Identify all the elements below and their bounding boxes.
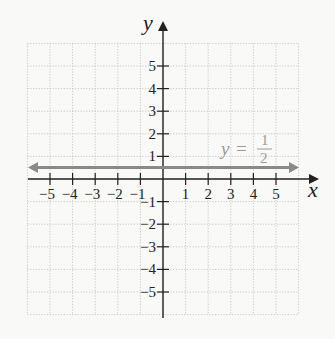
y-tick-label: 1 xyxy=(149,148,157,164)
x-tick-label: 4 xyxy=(250,186,258,202)
y-tick-label: 4 xyxy=(149,81,157,97)
y-tick-label: −5 xyxy=(140,284,156,300)
y-tick-label: −4 xyxy=(140,261,156,277)
coordinate-plane: −5−4−3−2−11234554321−1−2−3−4−5 y = 1 2 x… xyxy=(0,0,335,339)
y-axis-arrow-icon xyxy=(158,21,168,31)
line-left-arrow-icon xyxy=(28,162,38,173)
equation-label: y = 1 2 xyxy=(219,132,272,166)
x-tick-label: 1 xyxy=(182,186,190,202)
x-tick-label: −4 xyxy=(62,186,78,202)
y-tick-label: 5 xyxy=(149,58,157,74)
x-tick-label: 5 xyxy=(272,186,280,202)
y-tick-label: 2 xyxy=(149,126,157,142)
svg-text:=: = xyxy=(236,138,247,159)
y-tick-label: 3 xyxy=(149,103,157,119)
svg-text:2: 2 xyxy=(260,150,268,166)
y-axis-label: y xyxy=(141,10,153,35)
y-tick-label: −2 xyxy=(140,216,156,232)
x-tick-label: 2 xyxy=(204,186,212,202)
y-tick-label: −1 xyxy=(140,194,156,210)
svg-text:1: 1 xyxy=(261,132,269,148)
line-right-arrow-icon xyxy=(289,162,299,173)
x-tick-label: −5 xyxy=(39,186,55,202)
x-axis-label: x xyxy=(307,177,318,202)
x-tick-label: 3 xyxy=(227,186,235,202)
x-tick-label: −2 xyxy=(107,186,123,202)
y-tick-label: −3 xyxy=(140,239,156,255)
x-tick-label: −3 xyxy=(84,186,100,202)
svg-text:y: y xyxy=(219,138,230,159)
